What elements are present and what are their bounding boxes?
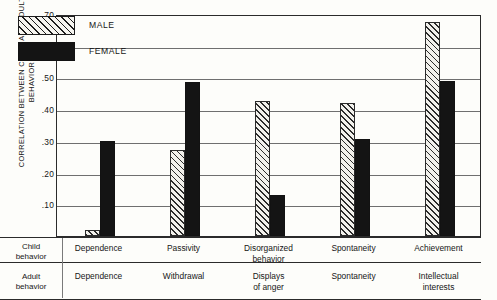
- legend: MALE FEMALE: [18, 14, 127, 66]
- adult-behavior-label-line1: Spontaneity: [311, 271, 396, 282]
- adult-behavior-cell: Spontaneity: [311, 271, 396, 282]
- child-behavior-label-line1: Spontaneity: [311, 243, 396, 254]
- adult-behavior-label-line1: Dependence: [56, 271, 141, 282]
- adult-behavior-label-line1: Displays: [226, 271, 311, 282]
- adult-behavior-label-line1: Intellectual: [396, 271, 481, 282]
- row-header-child-line1: Child: [0, 242, 62, 252]
- bar-female-spontaneity: [355, 139, 370, 236]
- child-behavior-cell: Disorganizedbehavior: [226, 243, 311, 264]
- child-behavior-label-line1: Disorganized: [226, 243, 311, 254]
- bar-male-disorganized-behavior: [255, 101, 270, 236]
- bar-female-passivity: [185, 82, 200, 236]
- bar-female-achievement: [440, 81, 455, 236]
- legend-label-male: MALE: [89, 20, 115, 30]
- adult-behavior-label-line2: interests: [396, 282, 481, 293]
- y-tick-50: .50: [42, 73, 54, 83]
- child-behavior-cell: Passivity: [141, 243, 226, 254]
- child-behavior-label-line2: behavior: [226, 254, 311, 265]
- bar-male-achievement: [425, 22, 440, 236]
- child-behavior-label-line1: Passivity: [141, 243, 226, 254]
- row-header-adult: Adult behavior: [0, 272, 62, 292]
- adult-behavior-cell: Intellectualinterests: [396, 271, 481, 292]
- y-tick-40: .40: [42, 105, 54, 115]
- child-behavior-label-line1: Achievement: [396, 243, 481, 254]
- adult-behavior-label-line2: of anger: [226, 282, 311, 293]
- bar-female-disorganized-behavior: [270, 195, 285, 236]
- row-header-adult-line1: Adult: [0, 272, 62, 282]
- chart-container: CORRELATION BETWEEN CHILD AND ADULT BEHA…: [0, 0, 497, 300]
- adult-behavior-cell: Withdrawal: [141, 271, 226, 282]
- legend-item-female: FEMALE: [18, 40, 127, 62]
- child-behavior-cell: Spontaneity: [311, 243, 396, 254]
- category-label-table: Child behavior Adult behavior Dependence…: [0, 237, 497, 300]
- adult-behavior-label-line1: Withdrawal: [141, 271, 226, 282]
- adult-behavior-cell: Dependence: [56, 271, 141, 282]
- adult-behavior-cell: Displaysof anger: [226, 271, 311, 292]
- gridline: [57, 79, 480, 80]
- legend-swatch-male-icon: [18, 16, 75, 35]
- row-header-adult-line2: behavior: [0, 282, 62, 292]
- child-behavior-cell: Achievement: [396, 243, 481, 254]
- bar-male-passivity: [170, 150, 185, 236]
- axis-rule-top: [0, 237, 481, 238]
- bar-female-dependence: [100, 141, 115, 236]
- legend-swatch-female-icon: [18, 42, 75, 61]
- bar-male-spontaneity: [340, 103, 355, 236]
- legend-label-female: FEMALE: [89, 46, 127, 56]
- child-behavior-cell: Dependence: [56, 243, 141, 254]
- legend-item-male: MALE: [18, 14, 127, 36]
- bar-male-dependence: [85, 230, 100, 236]
- row-header-child: Child behavior: [0, 242, 62, 262]
- y-tick-20: .20: [42, 169, 54, 179]
- child-behavior-label-line1: Dependence: [56, 243, 141, 254]
- row-header-child-line2: behavior: [0, 252, 62, 262]
- y-tick-30: .30: [42, 137, 54, 147]
- y-tick-10: .10: [42, 200, 54, 210]
